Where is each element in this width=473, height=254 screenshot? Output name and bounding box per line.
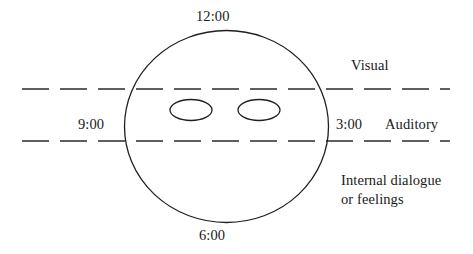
zone-label-internal-line2: or feelings [341,190,441,209]
zone-label-auditory: Auditory [385,116,438,133]
zone-label-internal-line1: Internal dialogue [341,171,441,190]
clock-label-6: 6:00 [199,227,225,244]
clock-label-3: 3:00 [336,116,362,133]
left-eye-ellipse [170,100,212,121]
zone-label-internal-dialogue: Internal dialogue or feelings [341,171,441,210]
clock-label-12: 12:00 [196,8,230,25]
diagram-canvas: 12:00 3:00 6:00 9:00 Visual Auditory Int… [0,0,473,254]
head-outline-oval [125,31,329,223]
clock-label-9: 9:00 [78,116,104,133]
right-eye-ellipse [238,100,280,121]
zone-label-visual: Visual [351,57,389,74]
